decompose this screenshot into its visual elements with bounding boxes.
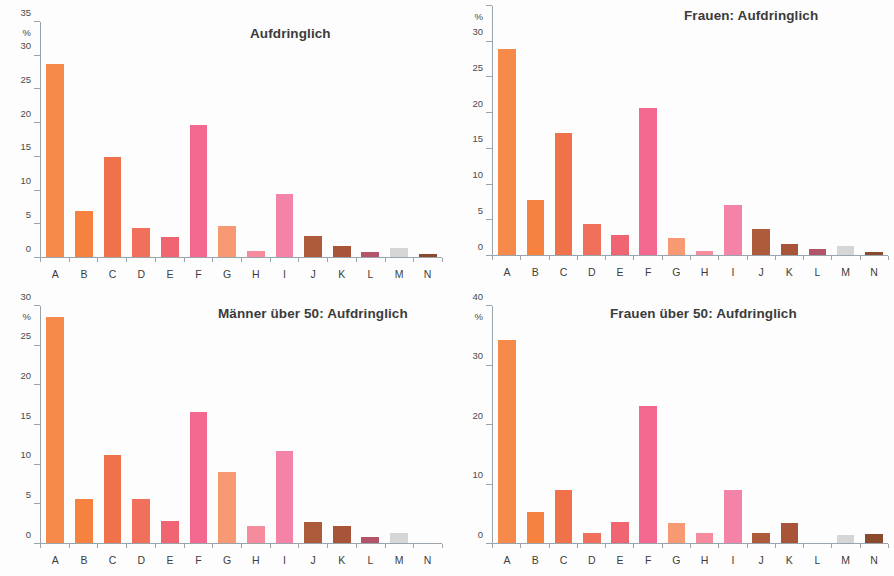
y-axis-tick-label: 25 <box>472 63 483 73</box>
x-axis-labels: ABCDEFGHIJKLMN <box>493 266 888 278</box>
plot-area: 010203040% <box>492 306 888 544</box>
y-axis-tick <box>34 424 40 425</box>
y-axis-tick-label: 10 <box>472 170 483 180</box>
bar-f <box>190 125 208 257</box>
bar-slot-n <box>860 306 888 543</box>
bar-slot-a <box>41 306 70 543</box>
bar-j <box>752 533 769 543</box>
bar-slot-l <box>356 22 385 257</box>
chart-panel-aufdringlich-frauen-ueber-50: Frauen über 50: Aufdringlich010203040%AB… <box>452 292 894 576</box>
x-axis-label-c: C <box>549 266 577 278</box>
y-axis-unit-label: % <box>475 12 483 22</box>
x-axis-tick <box>298 544 299 548</box>
bar-slot-i <box>270 22 299 257</box>
bar-slot-i <box>719 306 747 543</box>
bar-j <box>304 522 322 543</box>
x-axis-label-k: K <box>775 266 803 278</box>
x-axis-tick <box>831 544 832 548</box>
bar-slot-c <box>98 306 127 543</box>
x-axis-label-h: H <box>241 268 270 280</box>
multi-panel-bar-chart-figure: Aufdringlich05101520253035%ABCDEFGHIJKLM… <box>0 0 894 576</box>
x-axis-label-e: E <box>156 554 185 566</box>
bar-c <box>555 133 572 255</box>
x-axis-tick <box>718 544 719 548</box>
y-axis-tick-label: 20 <box>472 99 483 109</box>
bar-e <box>611 522 628 543</box>
bar-slot-h <box>241 306 270 543</box>
x-axis-tick <box>633 544 634 548</box>
x-axis-label-l: L <box>356 268 385 280</box>
y-axis-tick-label: 25 <box>20 331 31 341</box>
x-axis-tick <box>492 544 493 548</box>
bar-g <box>668 238 685 255</box>
chart-panel-aufdringlich-maenner-ueber-50: Männer über 50: Aufdringlich051015202530… <box>0 292 448 576</box>
y-axis-tick-label: 15 <box>472 135 483 145</box>
bar-d <box>132 228 150 257</box>
bar-slot-n <box>860 6 888 255</box>
y-axis-tick-label: 0 <box>26 530 31 540</box>
x-axis-label-a: A <box>41 554 70 566</box>
x-axis-tick <box>860 256 861 260</box>
y-axis-tick <box>486 112 492 113</box>
x-axis-label-i: I <box>719 266 747 278</box>
y-axis-tick <box>34 305 40 306</box>
bar-a <box>498 340 515 543</box>
y-axis-tick-label: 20 <box>20 371 31 381</box>
bar-l <box>361 252 379 257</box>
bar-b <box>527 200 544 255</box>
x-axis-tick <box>690 256 691 260</box>
x-axis-tick <box>327 544 328 548</box>
bar-slot-j <box>299 22 328 257</box>
bar-c <box>104 455 122 543</box>
bar-slot-e <box>156 306 185 543</box>
bar-b <box>75 211 93 257</box>
bar-slot-f <box>634 306 662 543</box>
y-axis-tick-label: 0 <box>26 244 31 254</box>
x-axis-label-d: D <box>578 554 606 566</box>
y-axis-tick-label: 5 <box>26 490 31 500</box>
x-axis-tick <box>212 258 213 262</box>
y-axis-tick-label: 5 <box>478 206 483 216</box>
bar-slot-c <box>549 306 577 543</box>
y-axis-tick <box>486 148 492 149</box>
bar-l <box>809 249 826 255</box>
bar-slot-g <box>662 6 690 255</box>
bar-slot-g <box>213 22 242 257</box>
y-axis-tick-label: 30 <box>20 292 31 302</box>
bar-m <box>837 246 854 255</box>
x-axis-label-j: J <box>299 268 328 280</box>
bar-slot-d <box>127 306 156 543</box>
x-axis-label-b: B <box>521 554 549 566</box>
plot-area: 05101520253035% <box>492 6 888 256</box>
bar-g <box>218 226 236 257</box>
bar-slot-k <box>775 6 803 255</box>
x-axis-label-j: J <box>747 266 775 278</box>
x-axis-label-m: M <box>385 268 414 280</box>
bar-slot-b <box>70 22 99 257</box>
bar-n <box>419 254 437 257</box>
x-axis-label-l: L <box>803 266 831 278</box>
bar-slot-a <box>41 22 70 257</box>
y-axis-tick <box>486 76 492 77</box>
y-axis-tick <box>486 305 492 306</box>
y-axis-unit-label: % <box>23 312 31 322</box>
x-axis-tick <box>69 258 70 262</box>
y-axis-tick-label: 15 <box>20 143 31 153</box>
x-axis-label-k: K <box>327 554 356 566</box>
x-axis-label-a: A <box>41 268 70 280</box>
y-axis-tick-label: 0 <box>478 242 483 252</box>
bar-k <box>333 246 351 257</box>
x-axis-tick <box>413 258 414 262</box>
x-axis-label-c: C <box>98 554 127 566</box>
bar-slot-f <box>634 6 662 255</box>
bar-i <box>276 451 294 543</box>
bar-slot-h <box>241 22 270 257</box>
x-axis-tick <box>356 544 357 548</box>
x-axis-tick <box>690 544 691 548</box>
bar-slot-e <box>156 22 185 257</box>
bar-series <box>493 6 888 255</box>
bar-d <box>132 499 150 543</box>
bar-slot-g <box>213 306 242 543</box>
x-axis-tick <box>40 258 41 262</box>
y-axis-tick-label: 30 <box>20 41 31 51</box>
